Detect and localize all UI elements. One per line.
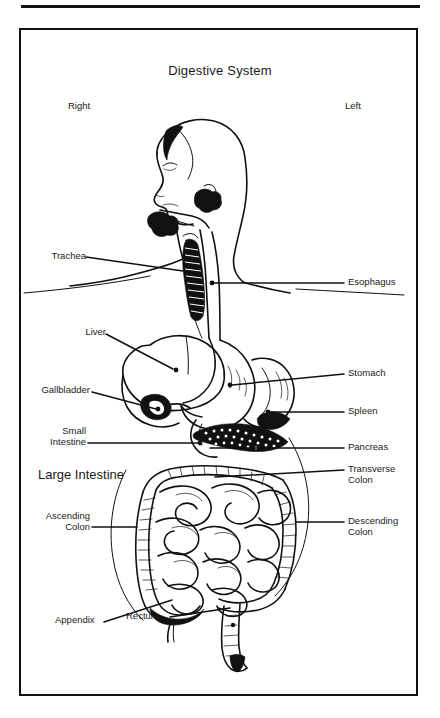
top-divider-rule: [21, 5, 420, 8]
label-stomach: Stomach: [348, 368, 386, 379]
label-large-intestine: Large Intestine: [38, 468, 124, 482]
figure-title: Digestive System: [0, 63, 440, 78]
orientation-label-right: Right: [68, 100, 90, 111]
label-spleen: Spleen: [348, 406, 378, 417]
figure-page: Digestive System Right Left: [0, 0, 440, 718]
label-ascending-colon: Ascending Colon: [22, 511, 90, 532]
label-esophagus: Esophagus: [348, 277, 396, 288]
figure-border: [19, 28, 418, 696]
label-descending-colon: Descending Colon: [348, 516, 398, 537]
label-gallbladder: Gallbladder: [16, 385, 90, 396]
label-trachea: Trachea: [24, 251, 86, 262]
label-pancreas: Pancreas: [348, 442, 388, 453]
orientation-label-left: Left: [345, 100, 361, 111]
label-transverse-colon: Transverse Colon: [348, 464, 395, 485]
label-small-intestine: Small Intestine: [26, 426, 86, 447]
label-appendix: Appendix: [55, 615, 95, 626]
label-rectum: Rectum: [126, 611, 159, 622]
label-liver: Liver: [44, 327, 106, 338]
